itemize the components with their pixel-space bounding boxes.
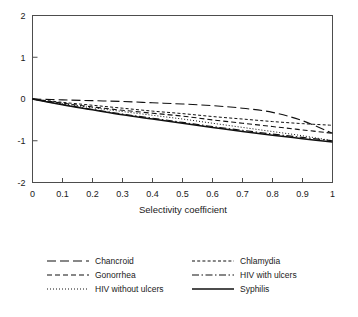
x-axis-title: Selectivity coefficient [139,204,227,215]
x-tick-label: 1 [330,189,335,199]
chart-legend: ChancroidGonorrheaHIV without ulcersChla… [47,256,297,294]
y-tick-label: 0 [20,94,25,104]
series-group [33,99,333,142]
x-axis-ticks: 00.10.20.30.40.50.60.70.80.91 [30,178,335,199]
line-chart: 210-1-2 00.10.20.30.40.50.60.70.80.91 Se… [0,0,358,317]
x-tick-label: 0.4 [146,189,159,199]
x-tick-label: 0.8 [266,189,279,199]
x-tick-label: 0.6 [206,189,219,199]
y-tick-label: -1 [17,136,25,146]
plot-frame [33,16,333,183]
y-tick-label: 1 [20,53,25,63]
legend-label-hiv-with-ulcers: HIV with ulcers [240,270,297,280]
x-tick-label: 0.5 [176,189,189,199]
legend-label-chlamydia: Chlamydia [240,256,280,266]
x-tick-label: 0.3 [116,189,129,199]
legend-label-syphilis: Syphilis [240,284,269,294]
series-line-hiv-without-ulcers [33,99,333,141]
legend-label-gonorrhea: Gonorrhea [95,270,136,280]
x-tick-label: 0 [30,189,35,199]
chart-figure: 210-1-2 00.10.20.30.40.50.60.70.80.91 Se… [0,0,358,317]
y-tick-label: -2 [17,178,25,188]
series-line-chlamydia [33,99,333,125]
y-tick-label: 2 [20,11,25,21]
x-tick-label: 0.2 [86,189,99,199]
x-tick-label: 0.9 [296,189,309,199]
x-tick-label: 0.1 [56,189,69,199]
legend-label-chancroid: Chancroid [95,256,134,266]
legend-label-hiv-without-ulcers: HIV without ulcers [95,284,164,294]
x-tick-label: 0.7 [236,189,249,199]
